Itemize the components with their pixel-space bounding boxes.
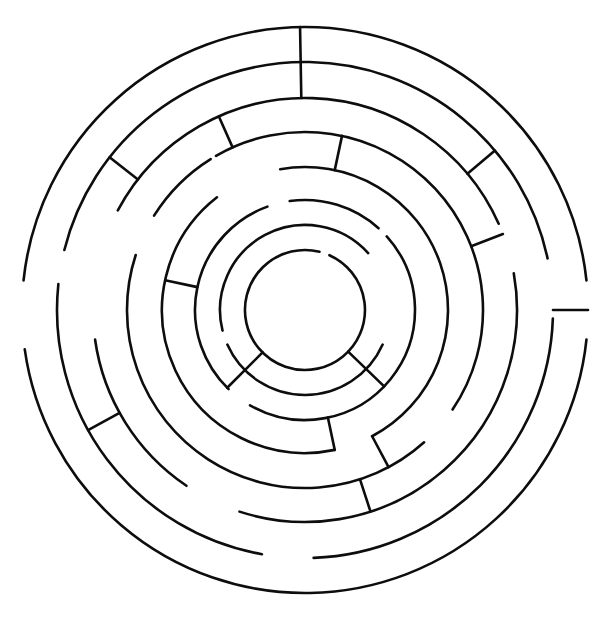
maze-wall-radial-upper-right-outer (467, 151, 495, 174)
maze-arc-ring-3-1 (162, 197, 335, 453)
maze-arc-ring-4-1 (127, 255, 424, 488)
maze-arc-ring-5-0 (118, 98, 499, 224)
maze-wall-radial-upper-left-inner (219, 116, 233, 147)
maze-figure (0, 0, 604, 620)
maze-arc-ring-6-0 (64, 62, 547, 258)
maze-arc-ring-6-2 (57, 284, 262, 554)
maze-ring-layer (24, 27, 587, 593)
maze-wall-radial-lower-left-core (227, 352, 262, 387)
maze-arc-ring-5-1 (239, 273, 517, 522)
maze-wall-radial-bottom-core (328, 418, 335, 450)
maze-wall-radial-bottom-mid (360, 479, 371, 511)
maze-wall-radial-bottom-inner (372, 436, 388, 467)
maze-arc-ring-2-0 (250, 236, 415, 420)
maze-arc-outer-boundary-1 (25, 340, 587, 593)
maze-wall-radial-top-inner (335, 136, 342, 170)
maze-arc-outer-boundary-0 (24, 27, 587, 280)
maze-wall-radial-upper-left-outer (110, 157, 138, 179)
maze-arc-ring-4-2 (154, 159, 211, 216)
maze-arc-ring-1-1 (220, 225, 368, 331)
maze-arc-ring-2-1 (195, 207, 267, 390)
maze-wall-radial-left-inner (165, 280, 197, 287)
maze-canvas (0, 0, 604, 620)
maze-wall-radial-top-entrance (300, 27, 301, 98)
maze-wall-radial-right-mid (471, 234, 503, 246)
maze-wall-radial-lower-left-mid (88, 413, 119, 430)
